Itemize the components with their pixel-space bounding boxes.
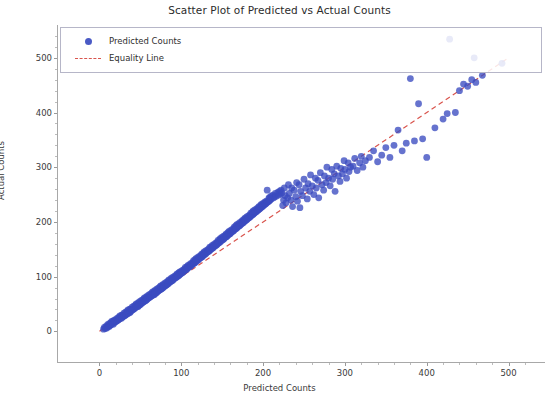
y-tick-mark-minor: [55, 309, 57, 310]
legend-marker-dot-icon: [71, 38, 105, 45]
scatter-point: [423, 154, 430, 161]
legend-label-predicted-counts: Predicted Counts: [109, 36, 181, 46]
x-tick-mark-minor: [230, 363, 231, 365]
y-tick-label: 500: [6, 53, 52, 63]
scatter-point: [407, 75, 414, 82]
scatter-point: [374, 158, 381, 165]
scatter-point: [370, 147, 377, 154]
y-tick-mark-minor: [55, 244, 57, 245]
scatter-point: [378, 152, 385, 159]
scatter-point: [315, 194, 322, 201]
x-tick-mark-minor: [410, 363, 411, 365]
x-tick-mark-minor: [116, 363, 117, 365]
x-tick-mark-minor: [378, 363, 379, 365]
x-tick-mark: [345, 363, 346, 366]
scatter-plot-figure: Scatter Plot of Predicted vs Actual Coun…: [0, 0, 559, 406]
x-tick-mark-minor: [443, 363, 444, 365]
y-tick-mark: [54, 113, 57, 114]
y-tick-mark-minor: [55, 69, 57, 70]
x-tick-mark: [263, 363, 264, 366]
x-tick-mark: [427, 363, 428, 366]
y-tick-mark-minor: [55, 288, 57, 289]
x-axis-label: Predicted Counts: [0, 383, 559, 393]
scatter-point: [391, 142, 398, 149]
x-tick-mark-minor: [329, 363, 330, 365]
scatter-point: [354, 167, 361, 174]
x-tick-mark-minor: [279, 363, 280, 365]
scatter-point: [337, 178, 344, 185]
scatter-point: [456, 87, 463, 94]
legend-marker-dash-icon: [71, 58, 105, 59]
x-tick-label: 200: [255, 368, 271, 378]
scatter-point: [395, 127, 402, 134]
x-tick-mark-minor: [525, 363, 526, 365]
x-tick-label: 0: [97, 368, 102, 378]
y-tick-mark-minor: [55, 123, 57, 124]
scatter-point: [366, 154, 373, 161]
x-tick-mark-minor: [149, 363, 150, 365]
y-tick-mark-minor: [55, 211, 57, 212]
y-tick-mark-minor: [55, 320, 57, 321]
plot-canvas: [79, 25, 529, 345]
y-tick-mark-minor: [55, 200, 57, 201]
scatter-point: [360, 164, 367, 171]
y-tick-label: 100: [6, 272, 52, 282]
scatter-points: [100, 36, 505, 333]
x-tick-mark-minor: [165, 363, 166, 365]
chart-legend: Predicted Counts Equality Line: [60, 27, 542, 73]
y-tick-mark-minor: [55, 47, 57, 48]
scatter-point: [411, 138, 418, 145]
scatter-point: [343, 175, 350, 182]
y-tick-mark: [54, 222, 57, 223]
scatter-point: [332, 188, 339, 195]
y-tick-mark-minor: [55, 266, 57, 267]
x-tick-mark-minor: [476, 363, 477, 365]
scatter-point: [403, 140, 410, 147]
scatter-point: [444, 110, 451, 117]
scatter-point: [432, 124, 439, 131]
y-tick-mark-minor: [55, 134, 57, 135]
x-tick-mark-minor: [198, 363, 199, 365]
scatter-point: [464, 83, 471, 90]
x-tick-label: 300: [337, 368, 353, 378]
scatter-point: [320, 187, 327, 194]
x-tick-mark-minor: [394, 363, 395, 365]
y-tick-mark: [54, 167, 57, 168]
x-tick-mark-minor: [312, 363, 313, 365]
x-tick-mark-minor: [247, 363, 248, 365]
chart-title: Scatter Plot of Predicted vs Actual Coun…: [0, 4, 559, 16]
legend-item-equality-line: Equality Line: [71, 51, 164, 65]
x-tick-mark: [99, 363, 100, 366]
y-tick-mark-minor: [55, 91, 57, 92]
y-tick-label: 400: [6, 108, 52, 118]
scatter-point: [415, 100, 422, 107]
scatter-point: [452, 109, 459, 116]
y-tick-mark-minor: [55, 80, 57, 81]
x-tick-mark: [181, 363, 182, 366]
y-tick-mark-minor: [55, 178, 57, 179]
y-tick-mark: [54, 277, 57, 278]
scatter-point: [313, 185, 320, 192]
y-tick-mark-minor: [55, 255, 57, 256]
scatter-point: [472, 79, 479, 86]
y-tick-mark-minor: [55, 233, 57, 234]
scatter-point: [264, 187, 271, 194]
x-tick-mark: [509, 363, 510, 366]
x-tick-mark-minor: [459, 363, 460, 365]
x-tick-mark-minor: [214, 363, 215, 365]
y-tick-mark-minor: [55, 299, 57, 300]
legend-item-predicted-counts: Predicted Counts: [71, 34, 181, 48]
scatter-point: [294, 198, 301, 205]
x-tick-label: 100: [173, 368, 189, 378]
x-tick-mark-minor: [132, 363, 133, 365]
scatter-point: [289, 203, 296, 210]
y-axis-label: Actual Counts: [0, 141, 6, 200]
plot-area: [79, 25, 529, 345]
x-tick-mark-minor: [492, 363, 493, 365]
x-tick-mark-minor: [296, 363, 297, 365]
scatter-point: [440, 116, 447, 123]
legend-label-equality-line: Equality Line: [109, 53, 164, 63]
y-tick-mark-minor: [55, 145, 57, 146]
y-tick-mark: [54, 58, 57, 59]
y-tick-label: 300: [6, 162, 52, 172]
